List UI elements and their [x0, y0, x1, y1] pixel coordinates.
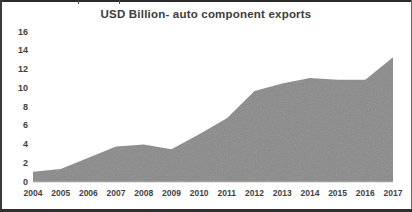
- area-chart-svg: [0, 0, 412, 212]
- area-series: [33, 57, 393, 182]
- y-tick-label: 16: [2, 28, 28, 37]
- y-tick-label: 8: [2, 103, 28, 112]
- y-tick-label: 12: [2, 65, 28, 74]
- y-tick-label: 0: [2, 178, 28, 187]
- plot-area: 0246810121416 20042005200620072008200920…: [0, 0, 412, 212]
- y-tick-label: 10: [2, 84, 28, 93]
- chart-screenshot: USD Billion- auto component exports 0246…: [0, 0, 412, 212]
- y-tick-label: 4: [2, 140, 28, 149]
- y-tick-label: 14: [2, 46, 28, 55]
- x-tick-label: 2017: [377, 189, 409, 198]
- y-tick-label: 6: [2, 121, 28, 130]
- y-tick-label: 2: [2, 159, 28, 168]
